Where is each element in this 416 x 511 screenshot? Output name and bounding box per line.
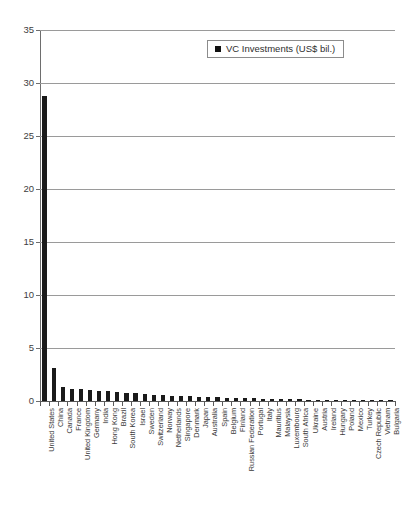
x-tick-label: Malaysia bbox=[284, 408, 291, 437]
x-tick-mark bbox=[377, 402, 378, 406]
x-tick-mark bbox=[231, 402, 232, 406]
bar bbox=[79, 389, 83, 401]
bar bbox=[115, 392, 119, 401]
x-tick-label: Mexico bbox=[357, 408, 364, 431]
x-tick-mark bbox=[386, 402, 387, 406]
y-tick-label: 15 bbox=[12, 237, 34, 247]
x-tick-mark bbox=[259, 402, 260, 406]
x-tick-mark bbox=[158, 402, 159, 406]
x-tick-mark bbox=[122, 402, 123, 406]
x-tick-mark bbox=[341, 402, 342, 406]
x-tick-mark bbox=[240, 402, 241, 406]
x-axis-line bbox=[40, 401, 396, 402]
y-tick-label: 5 bbox=[12, 343, 34, 353]
x-tick-mark bbox=[104, 402, 105, 406]
bar bbox=[42, 96, 46, 401]
x-tick-label: Turkey bbox=[366, 408, 373, 430]
x-tick-label: Finland bbox=[239, 408, 246, 432]
y-tick-label: 0 bbox=[12, 396, 34, 406]
x-tick-label: Spain bbox=[221, 408, 228, 427]
bar-series bbox=[40, 30, 395, 401]
x-tick-label: South Korea bbox=[129, 408, 136, 449]
x-tick-label: Vietnam bbox=[384, 408, 391, 435]
x-tick-label: Brazil bbox=[120, 408, 127, 426]
x-tick-mark bbox=[86, 402, 87, 406]
y-tick-label: 10 bbox=[12, 290, 34, 300]
x-tick-label: Switzerland bbox=[157, 408, 164, 446]
x-tick-label: Luxembourg bbox=[293, 408, 300, 449]
x-tick-label: Hungary bbox=[339, 408, 346, 436]
bar bbox=[143, 394, 147, 401]
x-tick-mark bbox=[49, 402, 50, 406]
x-tick-label: Singapore bbox=[184, 408, 191, 441]
x-tick-mark bbox=[304, 402, 305, 406]
x-tick-mark bbox=[250, 402, 251, 406]
x-tick-label: Bulgaria bbox=[393, 408, 400, 435]
x-tick-mark bbox=[95, 402, 96, 406]
bar bbox=[97, 391, 101, 401]
x-tick-label: Canada bbox=[66, 408, 73, 434]
legend-swatch-icon bbox=[215, 46, 221, 52]
x-tick-label: Czech Republic bbox=[375, 408, 382, 459]
x-tick-mark bbox=[295, 402, 296, 406]
x-tick-mark bbox=[77, 402, 78, 406]
x-tick-mark bbox=[268, 402, 269, 406]
x-tick-label: Mauritius bbox=[275, 408, 282, 438]
x-tick-mark bbox=[195, 402, 196, 406]
x-tick-label: Japan bbox=[202, 408, 209, 428]
bar bbox=[133, 393, 137, 401]
x-tick-mark bbox=[186, 402, 187, 406]
x-tick-mark bbox=[113, 402, 114, 406]
x-tick-mark bbox=[368, 402, 369, 406]
x-tick-mark bbox=[58, 402, 59, 406]
x-tick-mark bbox=[168, 402, 169, 406]
x-tick-mark bbox=[359, 402, 360, 406]
x-tick-label: United States bbox=[48, 408, 55, 452]
x-tick-label: Norway bbox=[166, 408, 173, 433]
x-tick-mark bbox=[149, 402, 150, 406]
x-tick-mark bbox=[177, 402, 178, 406]
x-tick-label: Russian Federation bbox=[248, 408, 255, 471]
x-tick-mark bbox=[222, 402, 223, 406]
x-tick-mark bbox=[286, 402, 287, 406]
x-tick-label: Austria bbox=[321, 408, 328, 431]
x-tick-mark bbox=[331, 402, 332, 406]
x-tick-label: India bbox=[102, 408, 109, 424]
x-tick-label: Ukraine bbox=[312, 408, 319, 433]
x-tick-label: Belgium bbox=[230, 408, 237, 434]
x-tick-label: Denmark bbox=[193, 408, 200, 438]
x-tick-mark bbox=[131, 402, 132, 406]
x-tick-label: Netherlands bbox=[175, 408, 182, 447]
bar bbox=[52, 368, 56, 401]
x-tick-label: Sweden bbox=[148, 408, 155, 434]
x-tick-label: France bbox=[75, 408, 82, 431]
x-tick-label: Australia bbox=[211, 408, 218, 436]
x-tick-mark bbox=[277, 402, 278, 406]
x-tick-label: Hong Kong bbox=[111, 408, 118, 445]
bar bbox=[88, 390, 92, 401]
x-tick-mark bbox=[322, 402, 323, 406]
y-tick-label: 35 bbox=[12, 25, 34, 35]
bar bbox=[70, 389, 74, 401]
x-tick-label: South Africa bbox=[302, 408, 309, 447]
y-tick-label: 20 bbox=[12, 184, 34, 194]
bar bbox=[124, 393, 128, 401]
x-tick-label: Ireland bbox=[330, 408, 337, 430]
x-tick-mark bbox=[313, 402, 314, 406]
y-tick-label: 30 bbox=[12, 78, 34, 88]
plot-area bbox=[40, 30, 395, 401]
x-tick-mark bbox=[67, 402, 68, 406]
x-tick-label: Israel bbox=[139, 408, 146, 426]
x-tick-mark bbox=[395, 402, 396, 406]
x-tick-mark bbox=[350, 402, 351, 406]
chart-legend: VC Investments (US$ bil.) bbox=[207, 40, 344, 58]
bar bbox=[61, 387, 65, 401]
y-tick-label: 25 bbox=[12, 131, 34, 141]
x-tick-label: United Kingdom bbox=[84, 408, 91, 460]
x-tick-label: Italy bbox=[266, 408, 273, 421]
x-tick-mark bbox=[204, 402, 205, 406]
x-tick-mark bbox=[140, 402, 141, 406]
bar bbox=[106, 391, 110, 401]
x-tick-mark bbox=[40, 402, 41, 406]
x-tick-mark bbox=[213, 402, 214, 406]
